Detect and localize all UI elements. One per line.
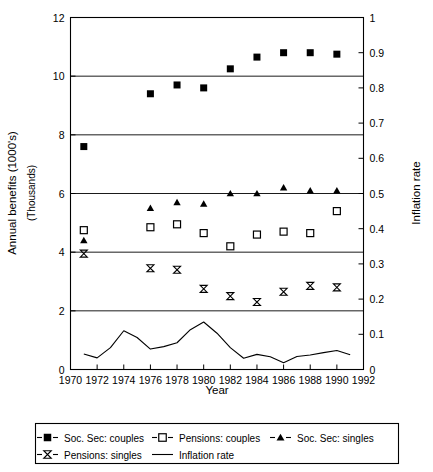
data-point: [200, 285, 207, 292]
x-tick-label: 1978: [165, 374, 189, 386]
data-point: [147, 205, 154, 211]
data-point: [227, 293, 234, 300]
y-tick-label: 10: [53, 70, 65, 82]
data-point: [280, 184, 287, 190]
legend-marker: [44, 434, 52, 442]
data-point: [174, 221, 181, 228]
data-point: [147, 224, 154, 231]
chart-canvas: 1970197219741976197819801982198419861988…: [0, 0, 433, 472]
y-tick-label: 0: [59, 364, 65, 376]
chart-figure: 1970197219741976197819801982198419861988…: [0, 0, 433, 472]
y2-tick-label: 1: [370, 12, 376, 24]
y2-tick-label: 0.9: [370, 47, 385, 59]
data-point: [200, 230, 207, 237]
data-point: [253, 54, 260, 61]
x-tick-label: 1986: [272, 374, 296, 386]
data-point: [307, 49, 314, 56]
inflation-rate-line: [84, 322, 350, 363]
series-inflation-rate: [84, 322, 350, 363]
y2-tick-label: 0.8: [370, 82, 385, 94]
y-axis-title: Annual benefits (1000's): [6, 131, 18, 255]
y2-tick-label: 0.4: [370, 223, 385, 235]
data-point: [147, 265, 154, 272]
data-point: [280, 49, 287, 56]
legend-marker: [159, 434, 167, 442]
x-tick-label: 1990: [325, 374, 349, 386]
data-point: [80, 227, 87, 234]
data-series-layer: [80, 49, 350, 363]
y2-tick-label: 0: [370, 364, 376, 376]
data-point: [174, 81, 181, 88]
data-point: [200, 84, 207, 91]
data-point: [80, 250, 87, 257]
y2-axis-title: Inflation rate: [410, 161, 422, 224]
y2-axis-ticks: 00.10.20.30.40.50.60.70.80.91: [359, 12, 385, 376]
y-tick-label: 8: [59, 129, 65, 141]
data-point: [307, 187, 314, 193]
data-point: [80, 143, 87, 150]
y2-tick-label: 0.3: [370, 258, 385, 270]
x-tick-label: 1984: [245, 374, 269, 386]
data-point: [307, 282, 314, 289]
y2-tick-label: 0.2: [370, 293, 385, 305]
series-soc-sec-singles: [80, 184, 340, 243]
x-tick-label: 1976: [139, 374, 163, 386]
data-point: [333, 208, 340, 215]
data-point: [333, 284, 340, 291]
x-tick-label: 1974: [112, 374, 136, 386]
y-tick-label: 4: [59, 246, 65, 258]
y2-tick-label: 0.6: [370, 152, 385, 164]
legend-label: Inflation rate: [179, 450, 234, 461]
x-axis-title: Year: [205, 384, 228, 396]
x-tick-label: 1988: [299, 374, 323, 386]
series-pensions-singles: [80, 250, 340, 305]
x-axis-ticks: 1970197219741976197819801982198419861988…: [59, 365, 376, 386]
y2-tick-label: 0.7: [370, 117, 385, 129]
data-point: [280, 288, 287, 295]
y-tick-label: 6: [59, 188, 65, 200]
y-tick-label: 12: [53, 12, 65, 24]
gridlines: [71, 76, 364, 311]
x-tick-label: 1972: [85, 374, 109, 386]
data-point: [253, 231, 260, 238]
legend-label: Pensions: singles: [64, 450, 142, 461]
data-point: [227, 243, 234, 250]
data-point: [333, 51, 340, 58]
data-point: [147, 90, 154, 97]
data-point: [253, 299, 260, 306]
data-point: [174, 266, 181, 273]
y-axis-ticks: 024681012: [53, 12, 76, 376]
y2-tick-label: 0.5: [370, 188, 385, 200]
y-axis-subtitle: (Thousands): [26, 165, 37, 221]
y2-tick-label: 0.1: [370, 328, 385, 340]
data-point: [280, 228, 287, 235]
data-point: [307, 230, 314, 237]
data-point: [227, 65, 234, 72]
series-pensions-couples: [80, 208, 340, 250]
data-point: [200, 200, 207, 206]
legend-label: Soc. Sec: singles: [297, 433, 374, 444]
legend-label: Soc. Sec: couples: [64, 433, 144, 444]
data-point: [333, 187, 340, 193]
y-tick-label: 2: [59, 305, 65, 317]
legend-label: Pensions: couples: [179, 433, 260, 444]
data-point: [173, 199, 180, 205]
data-point: [80, 237, 87, 243]
